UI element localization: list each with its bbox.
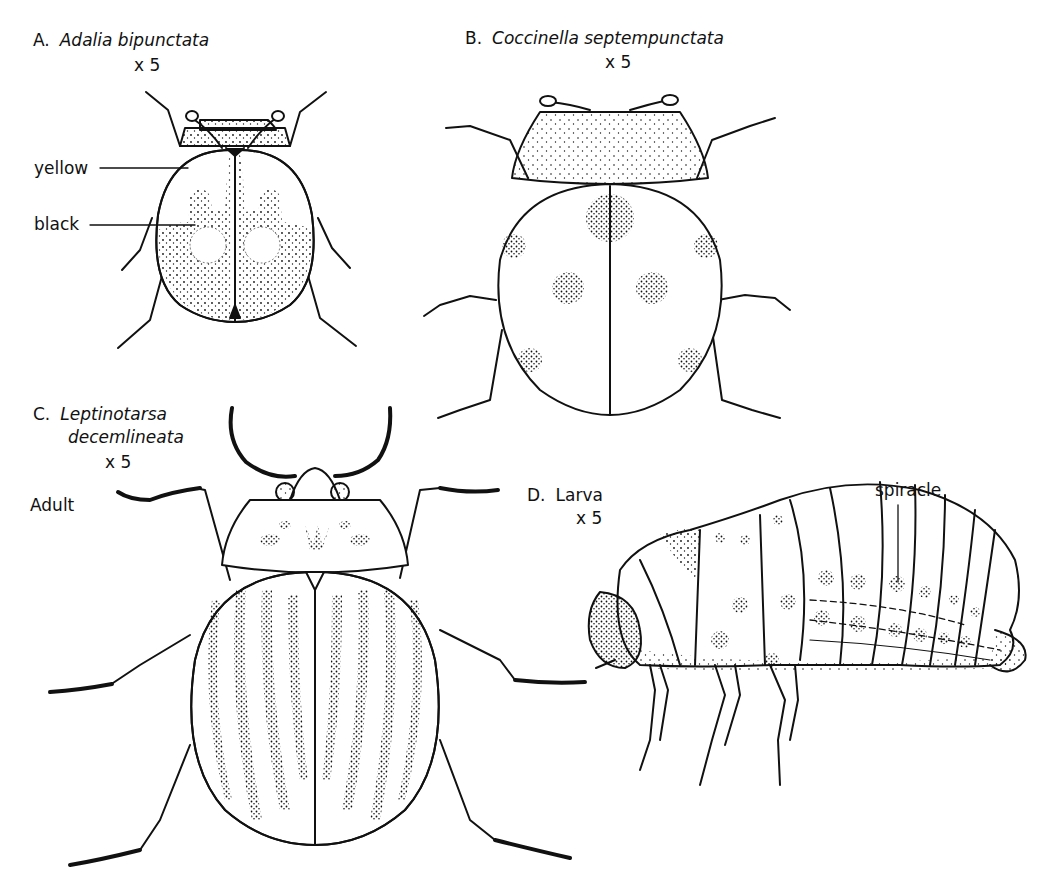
figure-b-title: B.Coccinella septempunctata xyxy=(465,28,724,48)
figure-d-title: D.Larva xyxy=(527,485,603,505)
figure-a-magnification: x 5 xyxy=(134,55,160,75)
figure-c-stage-label: Adult xyxy=(30,495,74,515)
figure-c-title: C.Leptinotarsa xyxy=(33,404,167,424)
figure-b-magnification: x 5 xyxy=(605,52,631,72)
annotation-black: black xyxy=(34,214,79,234)
illustration-canvas xyxy=(0,0,1042,895)
annotation-yellow: yellow xyxy=(34,158,88,178)
figure-c-species-name: decemlineata xyxy=(68,427,184,447)
figure-c-magnification: x 5 xyxy=(105,452,131,472)
figure-c-letter: C. xyxy=(33,404,50,424)
figure-d-magnification: x 5 xyxy=(576,508,602,528)
annotation-spiracle: spiracle xyxy=(875,480,941,500)
beetle-a-adalia-bipunctata xyxy=(90,92,356,348)
larva-d-leptinotarsa xyxy=(589,482,1026,785)
figure-a-letter: A. xyxy=(33,30,50,50)
figure-d-stage-name: Larva xyxy=(556,485,603,505)
figure-c-genus-name: Leptinotarsa xyxy=(60,404,167,424)
figure-b-species-name: Coccinella septempunctata xyxy=(492,28,724,48)
figure-d-letter: D. xyxy=(527,485,546,505)
figure-b-letter: B. xyxy=(465,28,482,48)
beetle-c-leptinotarsa-decemlineata-adult xyxy=(50,408,585,865)
figure-a-species-name: Adalia bipunctata xyxy=(60,30,209,50)
beetle-b-coccinella-septempunctata xyxy=(424,95,790,418)
figure-a-title: A.Adalia bipunctata xyxy=(33,30,209,50)
